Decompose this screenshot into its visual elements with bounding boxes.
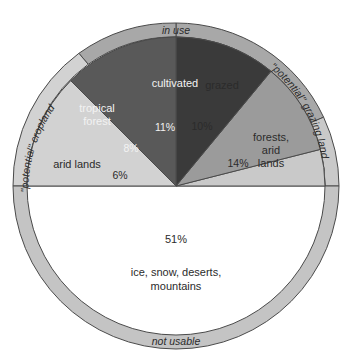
ring-label-in-use: in use — [162, 24, 190, 36]
slice-label-not-usable-line1: ice, snow, deserts, — [131, 266, 222, 278]
slice-label-cultivated: cultivated — [152, 77, 198, 89]
slice-label-tropical-forest-line2: forest — [83, 115, 111, 127]
slice-label-forests-arid-lands-line3: lands — [258, 157, 285, 169]
slice-percent-grazed: 10% — [191, 120, 212, 132]
slice-percent-tropical-forest: 8% — [123, 142, 138, 154]
slice-percent-cultivated: 11% — [155, 121, 175, 133]
pie-chart-svg: cultivated 11% grazed 10% forests, arid … — [0, 0, 353, 362]
slice-label-tropical-forest-line1: tropical — [79, 102, 114, 114]
slice-percent-forests-arid-lands: 14% — [227, 157, 248, 169]
slice-label-grazed: grazed — [205, 79, 239, 91]
slice-label-arid-lands: arid lands — [53, 158, 101, 170]
slice-label-not-usable-line2: mountains — [151, 280, 202, 292]
slice-label-forests-arid-lands-line2: arid — [262, 144, 280, 156]
slice-percent-not-usable: 51% — [165, 233, 187, 245]
slice-percent-arid-lands: 6% — [112, 169, 127, 181]
ring-label-not-usable: not usable — [152, 335, 201, 347]
land-use-pie-chart: cultivated 11% grazed 10% forests, arid … — [0, 0, 353, 362]
slice-label-forests-arid-lands-line1: forests, — [253, 131, 289, 143]
